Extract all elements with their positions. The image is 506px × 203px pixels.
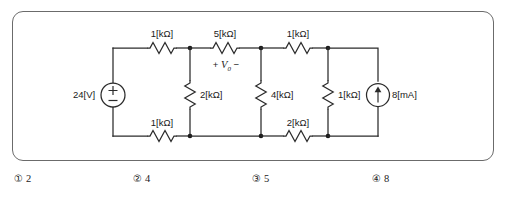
resistor-label-top-right: 1[kΩ] — [287, 29, 309, 39]
wire-c-to-current-source — [328, 48, 378, 81]
resistor-top-middle-symbol — [210, 43, 240, 54]
answer-choice-1[interactable]: ①2 — [14, 173, 31, 184]
answer-marker-3: ③ — [252, 173, 261, 184]
answer-value-2: 4 — [145, 173, 150, 184]
resistor-top-right-symbol — [283, 43, 313, 54]
answer-marker-4: ④ — [372, 173, 381, 184]
answer-choice-3[interactable]: ③5 — [252, 173, 269, 184]
answer-choice-2[interactable]: ②4 — [133, 173, 150, 184]
answer-value-4: 8 — [384, 173, 389, 184]
current-source-label: 8[mA] — [392, 90, 417, 100]
answer-value-1: 2 — [26, 173, 31, 184]
resistor-label-shunt-1k: 1[kΩ] — [338, 90, 360, 100]
voltage-source-label: 24[V] — [73, 90, 95, 100]
resistor-label-bottom-right: 2[kΩ] — [287, 118, 309, 128]
resistor-label-shunt-2k: 2[kΩ] — [200, 90, 222, 100]
resistor-bottom-left-symbol — [147, 131, 177, 142]
resistor-label-shunt-4k: 4[kΩ] — [271, 90, 293, 100]
problem-figure: 1[kΩ] 5[kΩ] 1[kΩ] + V0 − 24[V] 2[kΩ] 4[k… — [0, 0, 506, 203]
resistor-label-bottom-left: 1[kΩ] — [151, 118, 173, 128]
vo-symbol: V0 — [221, 59, 231, 70]
vo-plus: + — [213, 59, 219, 70]
resistor-bottom-right-symbol — [283, 131, 313, 142]
resistor-label-top-left: 1[kΩ] — [151, 29, 173, 39]
resistor-shunt-1k-symbol — [323, 80, 333, 110]
answer-value-3: 5 — [264, 173, 269, 184]
resistor-shunt-4k-symbol — [256, 80, 266, 110]
resistor-shunt-2k-symbol — [185, 80, 195, 110]
resistor-top-left-symbol — [147, 43, 177, 54]
answer-marker-2: ② — [133, 173, 142, 184]
answer-choices: ①2 ②4 ③5 ④8 — [0, 173, 506, 195]
measured-voltage-annotation: + V0 − — [213, 59, 239, 73]
vo-minus: − — [234, 59, 240, 70]
answer-marker-1: ① — [14, 173, 23, 184]
resistor-label-top-middle: 5[kΩ] — [214, 29, 236, 39]
answer-choice-4[interactable]: ④8 — [372, 173, 389, 184]
